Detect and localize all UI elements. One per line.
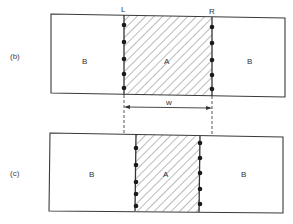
region-b-left-label: B (89, 170, 94, 179)
region-b-right-label: B (247, 57, 252, 66)
arrowhead-right-icon (206, 106, 212, 110)
panel-b-label: (b) (10, 52, 20, 61)
region-a-label: A (163, 170, 169, 179)
arrowhead-left-icon (124, 105, 130, 109)
region-a-label: A (164, 57, 170, 66)
boundary-l-label: L (121, 5, 126, 14)
width-dimension: w (124, 95, 212, 134)
width-label: w (165, 98, 172, 107)
region-b-right-label: B (241, 170, 246, 179)
boundary-r-label: R (209, 7, 215, 16)
boundary-left-c (135, 134, 136, 211)
width-arrow-line (126, 107, 210, 108)
region-b-left-label: B (82, 57, 87, 66)
panel-c: (c) B A B (10, 133, 283, 213)
panel-c-label: (c) (10, 169, 20, 178)
figure-canvas: (b) L R B A B (0, 0, 293, 224)
region-a-hatched (124, 15, 212, 96)
panel-b: (b) L R B A B (10, 5, 285, 97)
